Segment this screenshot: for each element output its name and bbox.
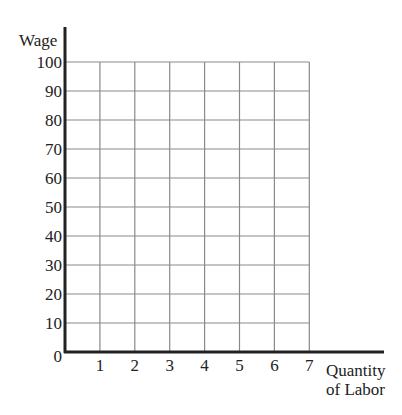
x-tick-label: 4	[195, 357, 215, 374]
y-tick-label: 50	[22, 199, 62, 216]
x-tick-label: 3	[160, 357, 180, 374]
y-tick-label: 80	[22, 112, 62, 129]
x-tick-label: 7	[299, 357, 319, 374]
x-tick-label: 2	[125, 357, 145, 374]
x-axis-label-line2: of Labor	[326, 381, 385, 398]
y-tick-label: 100	[22, 54, 62, 71]
y-tick-label: 60	[22, 170, 62, 187]
y-tick-label: 30	[22, 257, 62, 274]
x-tick-label: 5	[230, 357, 250, 374]
x-tick-label: 1	[90, 357, 110, 374]
y-axis-label: Wage	[19, 32, 57, 49]
y-tick-label: 10	[22, 315, 62, 332]
y-tick-label: 0	[22, 348, 62, 365]
y-tick-label: 90	[22, 83, 62, 100]
x-axis-label-line1: Quantity	[326, 362, 386, 379]
y-tick-label: 40	[22, 228, 62, 245]
y-tick-label: 20	[22, 286, 62, 303]
y-tick-label: 70	[22, 141, 62, 158]
x-tick-label: 6	[264, 357, 284, 374]
